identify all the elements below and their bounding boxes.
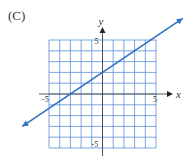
y-axis-arrow-icon (100, 27, 106, 33)
y-tick-label: -5 (92, 140, 99, 149)
x-tick-label: -5 (42, 95, 49, 104)
x-tick-label: 5 (153, 95, 157, 104)
axes (39, 27, 173, 156)
y-tick-label: 5 (95, 37, 99, 46)
x-axis-label: x (175, 88, 181, 100)
x-axis-arrow-icon (167, 91, 173, 97)
chart: x y -5 5 5 -5 (0, 0, 185, 163)
y-axis-label: y (98, 15, 104, 27)
